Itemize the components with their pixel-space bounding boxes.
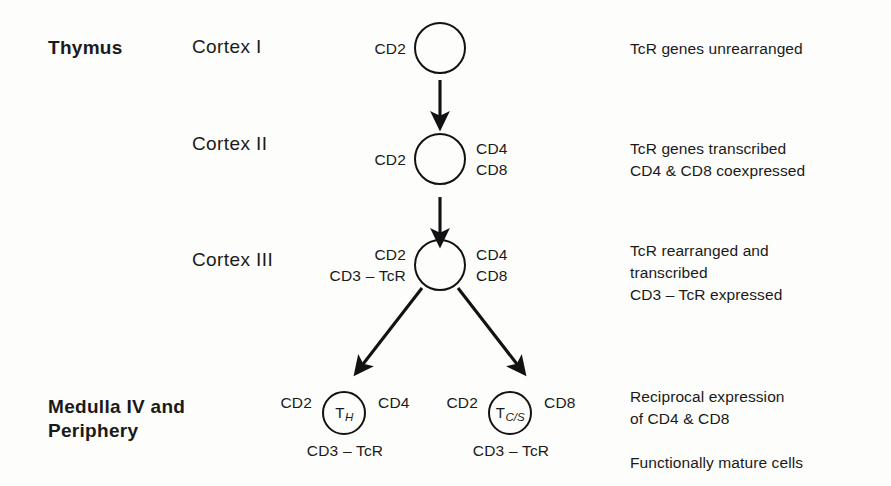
note-cortex-1: TcR genes unrearranged (630, 38, 880, 60)
markers-right-cortex-2: CD4 CD8 (476, 138, 596, 181)
markers-bottom-th: CD3 – TcR (270, 440, 420, 461)
note-cortex-2: TcR genes transcribed CD4 & CD8 coexpres… (630, 138, 885, 182)
note-mature-cells: Reciprocal expression of CD4 & CD8 Funct… (630, 386, 885, 474)
stage-label-cortex-2: Cortex II (192, 133, 267, 155)
compartment-label-medulla: Medulla IV and Periphery (48, 395, 185, 444)
markers-left-cortex-1: CD2 (288, 38, 406, 59)
arrow-stage3-to-tcs (458, 288, 520, 368)
cell-circle-tcs: TC/S (488, 391, 532, 435)
cell-symbol-th: TH (335, 404, 352, 421)
cell-circle-cortex-3 (414, 239, 466, 291)
cell-circle-th: TH (322, 391, 366, 435)
markers-bottom-tcs: CD3 – TcR (436, 440, 586, 461)
markers-left-th: CD2 (212, 392, 312, 413)
cell-symbol-tcs: TC/S (496, 404, 524, 421)
t-cell-development-diagram: Thymus Medulla IV and Periphery Cortex I… (0, 0, 891, 486)
stage-label-cortex-1: Cortex I (192, 36, 262, 58)
arrow-stage3-to-th (360, 288, 422, 368)
markers-right-tcs: CD8 (544, 392, 644, 413)
markers-right-cortex-3: CD4 CD8 (476, 244, 596, 287)
markers-left-cortex-3: CD2 CD3 – TcR (246, 244, 406, 287)
markers-left-tcs: CD2 (378, 392, 478, 413)
markers-left-cortex-2: CD2 (288, 149, 406, 170)
cell-circle-cortex-2 (414, 133, 466, 185)
compartment-label-thymus: Thymus (48, 36, 123, 60)
cell-circle-cortex-1 (414, 22, 466, 74)
note-cortex-3: TcR rearranged and transcribed CD3 – TcR… (630, 240, 885, 306)
